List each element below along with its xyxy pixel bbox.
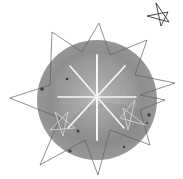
small-star-doodle bbox=[147, 3, 169, 26]
watercolor-orb-image bbox=[0, 0, 183, 179]
illustration bbox=[0, 0, 183, 179]
